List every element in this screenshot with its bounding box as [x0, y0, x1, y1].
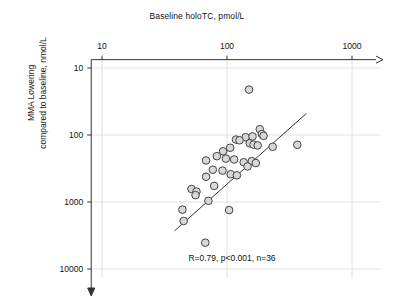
data-point	[254, 142, 262, 150]
x-tick-label: 10	[97, 41, 106, 51]
data-point	[192, 191, 200, 199]
chart-figure: Baseline holoTC, pmol/L MMA Lowering com…	[0, 0, 394, 305]
data-point	[201, 239, 209, 247]
data-point	[252, 159, 260, 167]
data-point	[293, 141, 301, 149]
x-tick-label: 1000	[343, 41, 362, 51]
y-tick-label: 1000	[20, 197, 83, 207]
trend-line	[174, 114, 306, 231]
data-point	[233, 172, 241, 180]
data-point	[269, 143, 277, 151]
x-tick-label: 100	[220, 41, 234, 51]
data-point	[202, 157, 210, 165]
data-point	[213, 152, 221, 160]
y-tick-label: 100	[20, 130, 83, 140]
data-point	[226, 144, 234, 152]
data-point	[180, 217, 188, 225]
data-point	[244, 163, 252, 171]
data-point	[202, 173, 210, 181]
data-point	[219, 167, 227, 175]
y-axis-arrowhead	[88, 288, 95, 296]
y-tick-label: 10	[20, 63, 83, 73]
data-point	[179, 206, 187, 214]
gridlines	[91, 60, 381, 278]
x-axis-arrowhead	[376, 56, 383, 63]
data-point	[222, 155, 230, 163]
data-point	[225, 206, 233, 214]
data-point	[230, 156, 238, 164]
data-point	[210, 182, 218, 190]
trend-line-segment	[174, 114, 306, 231]
data-point	[205, 197, 213, 205]
data-point	[245, 86, 253, 94]
data-points	[179, 86, 301, 247]
stats-annotation: R=0.79, p<0.001, n=36	[188, 253, 275, 263]
data-point	[236, 137, 244, 145]
data-point	[209, 166, 217, 174]
data-point	[260, 132, 268, 140]
axis-ticks	[87, 56, 352, 269]
y-tick-label: 10000	[20, 264, 83, 274]
